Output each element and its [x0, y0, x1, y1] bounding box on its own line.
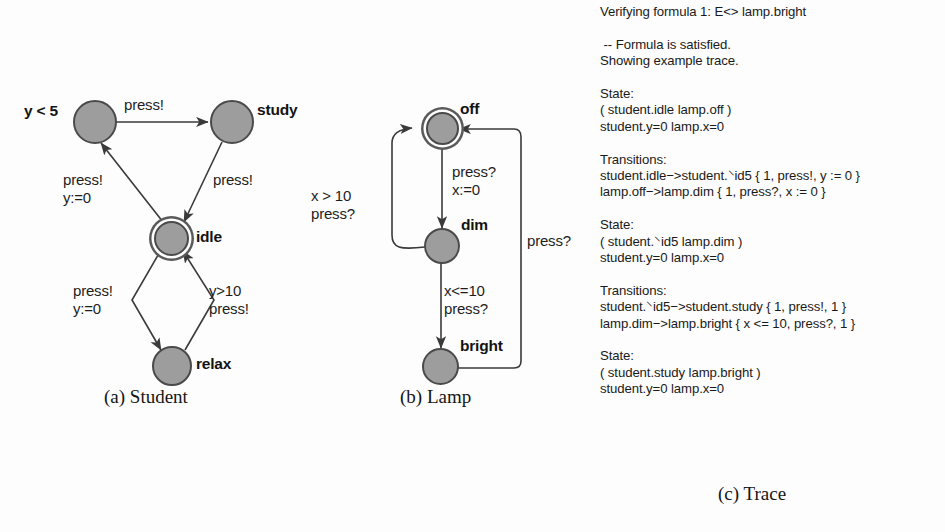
student-edge-label-top: press!	[124, 96, 164, 114]
trace-line	[600, 201, 945, 217]
trace-line: Showing example trace.	[600, 53, 945, 69]
student-node-label-y-lt-5: y < 5	[24, 102, 58, 120]
lamp-edge-label-off-to-dim: press? x:=0	[452, 163, 496, 199]
trace-line: student.⸌id5−>student.study { 1, press!,…	[600, 299, 945, 315]
student-node-label-study: study	[257, 101, 297, 119]
trace-caption: (c) Trace	[718, 483, 786, 505]
trace-output-panel: Verifying formula 1: E<> lamp.bright -- …	[600, 4, 945, 398]
figure-page: y < 5 study idle relax press! press! y:=…	[0, 0, 945, 532]
trace-line: Verifying formula 1: E<> lamp.bright	[600, 4, 945, 20]
trace-line: lamp.off−>lamp.dim { 1, press?, x := 0 }	[600, 184, 945, 200]
student-node-study[interactable]	[210, 100, 254, 144]
student-edges	[0, 0, 300, 420]
lamp-node-off[interactable]	[426, 112, 459, 145]
trace-line: State:	[600, 217, 945, 233]
student-node-relax[interactable]	[152, 346, 192, 386]
trace-line: ( student.⸌id5 lamp.dim )	[600, 234, 945, 250]
lamp-node-label-off: off	[460, 100, 479, 118]
trace-line: Transitions:	[600, 283, 945, 299]
trace-line: lamp.dim−>lamp.bright { x <= 10, press?,…	[600, 316, 945, 332]
trace-line	[600, 70, 945, 86]
trace-line: State:	[600, 86, 945, 102]
trace-line: ( student.study lamp.bright )	[600, 365, 945, 381]
trace-line: -- Formula is satisfied.	[600, 37, 945, 53]
trace-line: student.idle−>student.⸌id5 { 1, press!, …	[600, 168, 945, 184]
lamp-node-label-bright: bright	[460, 337, 503, 355]
lamp-edge-label-bright-to-off: press?	[527, 232, 571, 250]
lamp-node-bright[interactable]	[422, 348, 459, 385]
student-automaton: y < 5 study idle relax press! press! y:=…	[0, 0, 300, 420]
lamp-node-dim[interactable]	[424, 228, 460, 264]
student-edge-label-left-lower: press! y:=0	[73, 282, 113, 318]
trace-line: Transitions:	[600, 152, 945, 168]
lamp-caption: (b) Lamp	[400, 386, 471, 408]
student-node-y-lt-5[interactable]	[73, 100, 117, 144]
trace-line	[600, 20, 945, 36]
trace-line: State:	[600, 348, 945, 364]
student-edge-label-right-upper: press!	[213, 171, 253, 189]
trace-line: student.y=0 lamp.x=0	[600, 381, 945, 397]
lamp-node-label-dim: dim	[461, 216, 488, 234]
trace-line: student.y=0 lamp.x=0	[600, 250, 945, 266]
student-edge-label-right-lower: y>10 press!	[209, 282, 249, 318]
trace-line: student.y=0 lamp.x=0	[600, 119, 945, 135]
trace-line	[600, 266, 945, 282]
lamp-edge-label-dim-to-off: x > 10 press?	[311, 187, 355, 223]
student-caption: (a) Student	[104, 386, 188, 408]
trace-line	[600, 332, 945, 348]
student-node-label-idle: idle	[196, 228, 222, 246]
lamp-edge-label-dim-to-bright: x<=10 press?	[444, 282, 488, 318]
student-edge-label-left-upper: press! y:=0	[63, 171, 103, 207]
trace-line: ( student.idle lamp.off )	[600, 102, 945, 118]
student-node-label-relax: relax	[196, 355, 231, 373]
student-node-idle[interactable]	[154, 221, 189, 256]
lamp-automaton: off dim bright press? x:=0 x > 10 press?…	[300, 0, 600, 420]
trace-line	[600, 135, 945, 151]
